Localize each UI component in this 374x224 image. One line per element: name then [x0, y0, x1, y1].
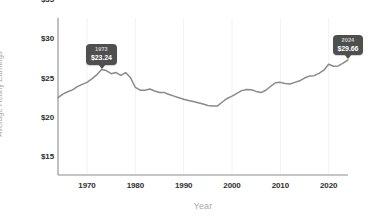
tooltip-value-label: $23.24 — [91, 54, 112, 61]
vertical-gridlines — [87, 18, 329, 175]
tooltip-arrow-icon — [98, 64, 106, 69]
tooltip-year-label: 2024 — [338, 38, 359, 44]
tooltip-year-label: 1973 — [91, 47, 112, 53]
chart-plot-svg — [0, 0, 374, 224]
tooltip-value-label: $29.66 — [338, 45, 359, 52]
tooltip-arrow-icon — [344, 54, 352, 59]
annotation-tooltip-1973[interactable]: 1973 $23.24 — [86, 44, 117, 64]
chart-container: Average Hourly Earnings $15$20$25$30$35 … — [0, 0, 374, 224]
annotation-tooltip-2024[interactable]: 2024 $29.66 — [333, 35, 364, 55]
